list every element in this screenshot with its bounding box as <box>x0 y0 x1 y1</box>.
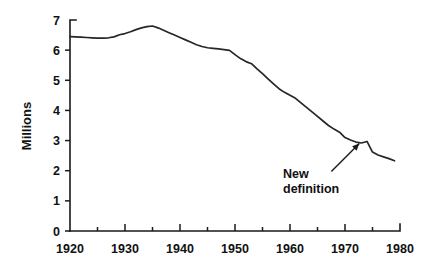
y-axis-tick-label: 2 <box>53 164 60 178</box>
x-axis-tick-label: 1940 <box>166 242 194 256</box>
y-axis-title: Millions <box>19 102 34 150</box>
annotation-group: New definition <box>283 144 359 197</box>
y-axis-tick-label: 0 <box>53 225 60 239</box>
y-axis-tick-label: 4 <box>53 104 60 118</box>
y-axis-line <box>70 20 76 231</box>
x-axis-tick-label: 1920 <box>56 242 84 256</box>
x-axis-ticks <box>98 224 373 231</box>
y-axis-group: 01234567 <box>53 14 76 239</box>
y-axis-tick-label: 6 <box>53 44 60 58</box>
x-axis-tick-label: 1980 <box>386 242 414 256</box>
y-axis-tick-label: 5 <box>53 74 60 88</box>
x-axis-group: 1920193019401950196019701980 <box>56 224 414 256</box>
y-axis-tick-labels: 01234567 <box>53 14 60 239</box>
annotation-text-line1: New <box>283 167 309 181</box>
x-axis-tick-label: 1930 <box>111 242 139 256</box>
x-axis-tick-labels: 1920193019401950196019701980 <box>56 242 414 256</box>
line-chart: 01234567 1920193019401950196019701980 Ne… <box>0 0 431 267</box>
annotation-text-line2: definition <box>283 182 339 196</box>
series-line-farms <box>70 26 395 161</box>
y-axis-tick-label: 1 <box>53 194 60 208</box>
y-axis-tick-label: 3 <box>53 134 60 148</box>
series-group <box>70 26 395 161</box>
y-axis-tick-label: 7 <box>53 14 60 28</box>
x-axis-tick-label: 1950 <box>221 242 249 256</box>
x-axis-tick-label: 1970 <box>331 242 359 256</box>
chart-container: 01234567 1920193019401950196019701980 Ne… <box>0 0 431 267</box>
y-axis-label-group: Millions <box>19 102 34 150</box>
x-axis-tick-label: 1960 <box>276 242 304 256</box>
